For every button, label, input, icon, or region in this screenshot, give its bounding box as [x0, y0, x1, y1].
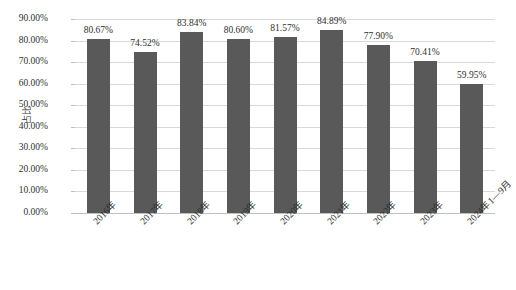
y-axis-tick-label: 70.00%: [0, 57, 48, 67]
bar[interactable]: [367, 45, 390, 213]
bar[interactable]: [227, 39, 250, 213]
bar[interactable]: [414, 61, 437, 213]
y-axis-tick-mark: [71, 191, 75, 192]
y-axis-tick-label: 90.00%: [0, 14, 48, 24]
y-axis-tick-mark: [71, 148, 75, 149]
gridline: [75, 19, 495, 20]
bar-chart: 占比 0.00%10.00%20.00%30.00%40.00%50.00%60…: [0, 0, 516, 290]
y-axis-tick-mark: [71, 213, 75, 214]
y-axis-tick-mark: [71, 84, 75, 85]
bar-value-label: 77.90%: [348, 32, 408, 42]
y-axis-tick-label: 60.00%: [0, 79, 48, 89]
y-axis-tick-mark: [71, 41, 75, 42]
y-axis-tick-mark: [71, 105, 75, 106]
bar-value-label: 59.95%: [442, 71, 502, 81]
y-axis-tick-label: 40.00%: [0, 122, 48, 132]
y-axis-tick-label: 30.00%: [0, 144, 48, 154]
bar-value-label: 70.41%: [395, 48, 455, 58]
bar-value-label: 84.89%: [302, 17, 362, 27]
bar[interactable]: [460, 84, 483, 213]
y-axis-tick-label: 50.00%: [0, 100, 48, 110]
bar-value-label: 74.52%: [115, 39, 175, 49]
bar-value-label: 80.67%: [68, 26, 128, 36]
bar[interactable]: [180, 32, 203, 213]
bar[interactable]: [320, 30, 343, 213]
y-axis-tick-mark: [71, 127, 75, 128]
y-axis-tick-label: 20.00%: [0, 165, 48, 175]
y-axis-tick-label: 80.00%: [0, 36, 48, 46]
y-axis-tick-mark: [71, 170, 75, 171]
plot-area: 0.00%10.00%20.00%30.00%40.00%50.00%60.00…: [75, 19, 495, 213]
bar[interactable]: [134, 52, 157, 213]
bar[interactable]: [274, 37, 297, 213]
y-axis-tick-mark: [71, 62, 75, 63]
y-axis-tick-label: 10.00%: [0, 187, 48, 197]
y-axis-tick-mark: [71, 19, 75, 20]
y-axis-tick-label: 0.00%: [0, 208, 48, 218]
bar[interactable]: [87, 39, 110, 213]
